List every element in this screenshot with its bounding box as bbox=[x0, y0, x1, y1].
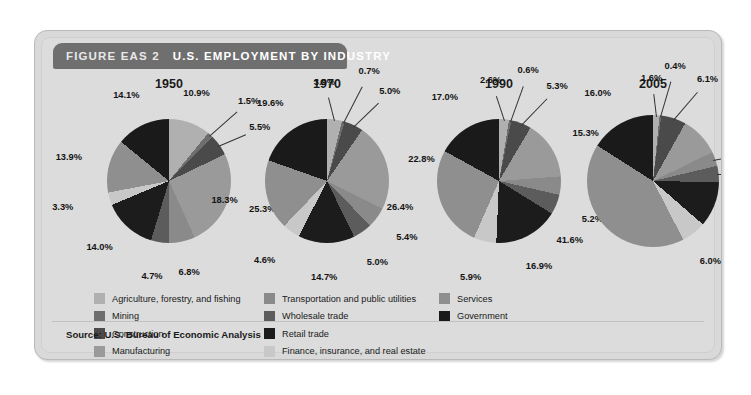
legend-item-services[interactable]: Services bbox=[439, 290, 508, 308]
pie-slice-label: 4.7% bbox=[141, 272, 162, 281]
pie-chart-2005: 20051.6%0.4%6.1%9.7%3.5%4.0%11.1%6.0%41.… bbox=[564, 74, 722, 284]
pie-slice-label: 6.8% bbox=[179, 268, 200, 277]
pie-slice-label: 26.4% bbox=[387, 204, 413, 213]
pie-slice-label: 13.9% bbox=[56, 153, 82, 162]
pie-slice-label: 5.0% bbox=[379, 87, 400, 96]
legend-item-agriculture[interactable]: Agriculture, forestry, and fishing bbox=[94, 290, 241, 308]
label-leader-line bbox=[521, 99, 547, 126]
pie-graphic bbox=[107, 119, 231, 243]
figure-panel: FIGURE EAS 2 U.S. EMPLOYMENT BY INDUSTRY… bbox=[34, 30, 722, 360]
pie-chart-1970: 19703.9%0.7%5.0%22.8%5.4%5.0%14.7%4.6%18… bbox=[238, 74, 416, 284]
legend-label-transportation: Transportation and public utilities bbox=[282, 294, 416, 304]
chart-legend: Agriculture, forestry, and fishingMining… bbox=[64, 290, 704, 350]
label-leader-line bbox=[654, 94, 658, 117]
pie-slice-label: 41.6% bbox=[557, 236, 583, 245]
legend-swatch-services bbox=[439, 293, 450, 304]
pie-chart-title: 1950 bbox=[80, 77, 258, 91]
legend-item-mining[interactable]: Mining bbox=[94, 308, 241, 326]
label-leader-line bbox=[343, 86, 363, 123]
legend-label-finance: Finance, insurance, and real estate bbox=[282, 346, 426, 356]
label-leader-line bbox=[353, 103, 379, 128]
legend-item-finance[interactable]: Finance, insurance, and real estate bbox=[264, 343, 426, 361]
legend-item-retail[interactable]: Retail trade bbox=[264, 325, 426, 343]
pie-slice-label: 14.1% bbox=[113, 91, 139, 100]
legend-label-manufacturing: Manufacturing bbox=[112, 346, 170, 356]
pie-slice-label: 6.1% bbox=[697, 75, 718, 84]
legend-swatch-finance bbox=[264, 346, 275, 357]
label-leader-line bbox=[209, 112, 237, 137]
legend-label-retail: Retail trade bbox=[282, 329, 329, 339]
legend-item-transportation[interactable]: Transportation and public utilities bbox=[264, 290, 426, 308]
legend-item-manufacturing[interactable]: Manufacturing bbox=[94, 343, 241, 361]
label-leader-line bbox=[496, 96, 505, 121]
legend-label-wholesale: Wholesale trade bbox=[282, 311, 348, 321]
pie-slice-label: 5.0% bbox=[367, 259, 388, 268]
label-leader-line bbox=[510, 86, 524, 122]
pie-slice-label: 1.6% bbox=[641, 74, 662, 83]
legend-column-2: Transportation and public utilitiesWhole… bbox=[264, 290, 426, 360]
legend-column-3: ServicesGovernment bbox=[439, 290, 508, 325]
legend-label-services: Services bbox=[457, 294, 492, 304]
pie-slice-label: 14.0% bbox=[86, 244, 112, 253]
label-leader-line bbox=[673, 92, 698, 121]
label-leader-line bbox=[717, 173, 722, 175]
label-leader-line bbox=[328, 98, 335, 121]
pie-slice-label: 0.6% bbox=[517, 67, 538, 76]
pie-slice-label: 4.6% bbox=[254, 256, 275, 265]
pie-chart-1950: 195010.9%1.5%5.5%25.3%6.8%4.7%14.0%3.3%1… bbox=[80, 74, 258, 284]
pie-chart-1990: 19902.6%0.6%5.3%15.3%4.8%5.2%16.9%5.9%26… bbox=[410, 74, 588, 284]
pie-slice-label: 3.3% bbox=[52, 203, 73, 212]
legend-label-agriculture: Agriculture, forestry, and fishing bbox=[112, 294, 241, 304]
figure-header-title: FIGURE EAS 2 U.S. EMPLOYMENT BY INDUSTRY bbox=[53, 50, 391, 62]
figure-header-bar: FIGURE EAS 2 U.S. EMPLOYMENT BY INDUSTRY bbox=[53, 43, 347, 69]
pie-slice-label: 10.9% bbox=[183, 89, 209, 98]
legend-label-government: Government bbox=[457, 311, 508, 321]
pie-slice-label: 17.0% bbox=[432, 94, 458, 103]
pie-slice-label: 16.0% bbox=[585, 90, 611, 99]
pie-slice-label: 5.9% bbox=[460, 273, 481, 282]
source-note: Source: U.S. Bureau of Economic Analysis bbox=[66, 329, 261, 340]
footer-divider bbox=[52, 321, 704, 322]
figure-panel-inner: FIGURE EAS 2 U.S. EMPLOYMENT BY INDUSTRY… bbox=[41, 37, 715, 353]
pie-graphic bbox=[587, 115, 719, 247]
legend-swatch-retail bbox=[264, 328, 275, 339]
pie-graphic bbox=[265, 119, 389, 243]
legend-label-mining: Mining bbox=[112, 311, 139, 321]
pie-slice-label: 0.7% bbox=[359, 67, 380, 76]
pie-slice-label: 3.9% bbox=[314, 78, 335, 87]
page-title: U.S. EMPLOYMENT BY INDUSTRY bbox=[173, 50, 391, 62]
pie-wrap: 10.9%1.5%5.5%25.3%6.8%4.7%14.0%3.3%13.9%… bbox=[80, 91, 258, 271]
pie-slice-label: 19.6% bbox=[257, 100, 283, 109]
pie-graphic bbox=[437, 119, 561, 243]
pie-slice-label: 14.7% bbox=[311, 273, 337, 282]
pie-slice-label: 6.0% bbox=[700, 257, 721, 266]
pie-slice-label: 18.3% bbox=[211, 197, 237, 206]
legend-item-wholesale[interactable]: Wholesale trade bbox=[264, 308, 426, 326]
figure-root: FIGURE EAS 2 U.S. EMPLOYMENT BY INDUSTRY… bbox=[0, 0, 751, 395]
legend-swatch-agriculture bbox=[94, 293, 105, 304]
pie-slice-label: 16.9% bbox=[526, 262, 552, 271]
pie-wrap: 1.6%0.4%6.1%9.7%3.5%4.0%11.1%6.0%41.6%16… bbox=[564, 91, 722, 271]
pie-slice-label: 0.4% bbox=[664, 62, 685, 71]
legend-swatch-transportation bbox=[264, 293, 275, 304]
pie-wrap: 3.9%0.7%5.0%22.8%5.4%5.0%14.7%4.6%18.3%1… bbox=[238, 91, 416, 271]
pie-chart-row: 195010.9%1.5%5.5%25.3%6.8%4.7%14.0%3.3%1… bbox=[42, 74, 714, 284]
pie-slice-label: 2.6% bbox=[480, 76, 501, 85]
figure-number: FIGURE EAS 2 bbox=[66, 50, 160, 62]
legend-swatch-manufacturing bbox=[94, 346, 105, 357]
legend-item-government[interactable]: Government bbox=[439, 308, 508, 326]
legend-column-1: Agriculture, forestry, and fishingMining… bbox=[94, 290, 241, 360]
